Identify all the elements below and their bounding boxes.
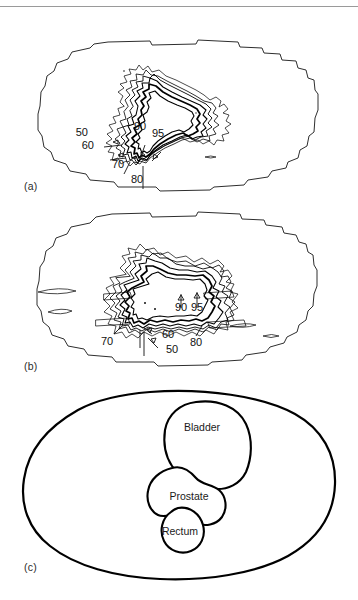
dose-label-50-b: 50 [166, 343, 178, 355]
speckle-dot [154, 308, 156, 310]
panel-caption-a: (a) [24, 180, 37, 192]
dose-label-90-b: 90 [175, 301, 187, 313]
speckle-dot [134, 157, 136, 159]
organ-label-bladder: Bladder [184, 421, 221, 433]
dose-label-60-a: 60 [82, 139, 94, 151]
dose-label-95-a: 95 [152, 127, 164, 139]
panel-caption-c: (c) [24, 561, 37, 573]
speckle-dot [195, 112, 196, 113]
dose-label-50-a: 50 [76, 126, 88, 138]
dose-label-80-a: 80 [131, 173, 143, 185]
speckle-dot [123, 70, 125, 72]
dose-label-60-b: 60 [162, 328, 174, 340]
dose-label-70-a: 70 [112, 158, 124, 170]
panel-a-isodose-transverse: 50 60 70 80 90 95 [0, 14, 358, 210]
figure-root: 50 60 70 80 90 95 [0, 0, 358, 600]
panel-b-isodose-sagittal: 70 60 50 80 90 95 [0, 208, 358, 386]
dose-label-80-b: 80 [190, 336, 202, 348]
body-outline-a [38, 40, 318, 191]
panel-c-anatomy: Bladder Prostate Rectum [0, 384, 358, 592]
panel-caption-b: (b) [24, 360, 37, 372]
organ-label-prostate: Prostate [169, 490, 208, 502]
dose-label-95-b: 95 [191, 301, 203, 313]
organ-label-rectum: Rectum [162, 525, 198, 537]
page-top-rule [0, 6, 358, 7]
dose-label-90-a: 90 [134, 120, 146, 132]
speckle-dot [144, 302, 146, 304]
dose-label-70-b: 70 [101, 335, 113, 347]
